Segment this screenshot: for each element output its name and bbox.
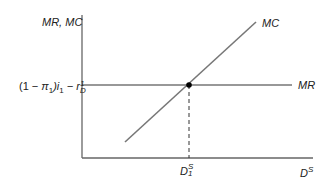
- equilibrium-quantity-label: DS1: [180, 166, 193, 177]
- label-part: π: [41, 80, 48, 92]
- x-axis-label: DS: [300, 166, 313, 179]
- equilibrium-point: [186, 82, 192, 88]
- y-axis-label: MR, MC: [42, 17, 82, 28]
- label-part: D: [300, 167, 308, 179]
- mr-curve-label: MR: [298, 80, 315, 91]
- label-part: − r: [64, 80, 80, 92]
- mr-level-label: (1 − π1)i1 − r1D: [19, 80, 86, 95]
- label-part: D: [80, 87, 86, 94]
- label-part: S: [308, 165, 313, 174]
- label-part: (1 −: [19, 80, 41, 92]
- label-part: D: [180, 165, 188, 177]
- mc-line: [125, 22, 256, 142]
- label-part: 1: [188, 170, 193, 177]
- mc-curve-label: MC: [262, 18, 279, 29]
